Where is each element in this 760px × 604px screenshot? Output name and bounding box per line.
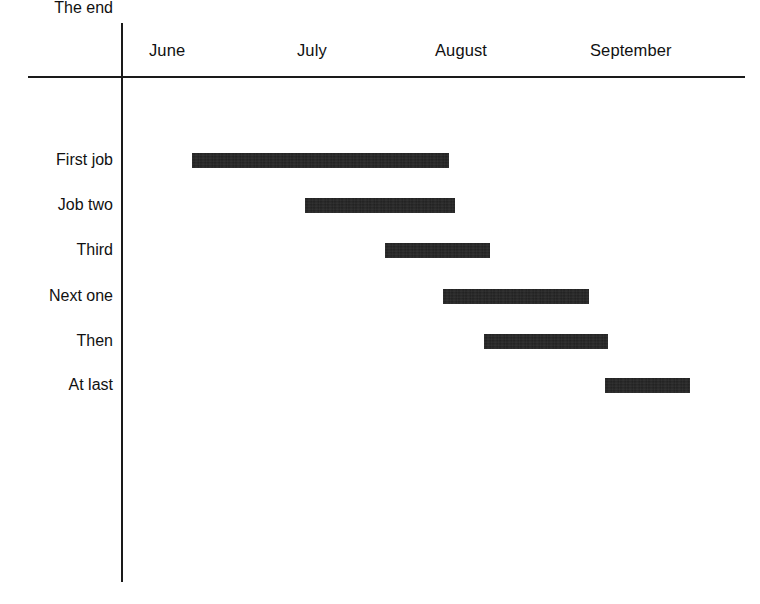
task-bar-then [484, 334, 608, 349]
task-label-next-one: Next one [49, 288, 113, 304]
task-label-then: Then [77, 333, 113, 349]
task-label-job-two: Job two [58, 197, 113, 213]
task-bar-third [385, 243, 490, 258]
task-bar-first-job [192, 153, 449, 168]
x-axis-tick-label-july: July [297, 42, 327, 59]
x-axis-tick-label-september: September [590, 42, 672, 59]
y-axis-line [121, 23, 123, 582]
task-bar-next-one [443, 289, 589, 304]
x-axis-tick-label-august: August [435, 42, 487, 59]
gantt-chart: June July August September First job Job… [0, 0, 760, 604]
task-label-first-job: First job [56, 152, 113, 168]
task-label-the-end: The end [54, 0, 113, 16]
task-label-at-last: At last [69, 377, 113, 393]
x-axis-tick-label-june: June [149, 42, 185, 59]
x-axis-line [28, 76, 745, 78]
task-label-third: Third [77, 242, 113, 258]
task-bar-job-two [305, 198, 455, 213]
task-bar-at-last [605, 378, 690, 393]
